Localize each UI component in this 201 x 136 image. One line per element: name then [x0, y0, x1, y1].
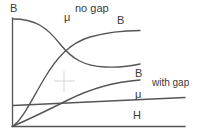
x-axis-label: H [133, 110, 141, 121]
crosshair-marker [54, 71, 75, 92]
y-axis-label: B [10, 3, 17, 14]
curve-b-no-gap [13, 31, 140, 127]
plot-canvas [0, 0, 201, 136]
curve-label-b-no-gap: B [117, 15, 124, 26]
curve-label-b-with-gap: B [135, 68, 142, 79]
curve-label-mu-with-gap: μ [135, 89, 141, 100]
curve-mu-with-gap [13, 98, 185, 106]
annotation-with-gap: with gap [152, 78, 189, 88]
annotation-no-gap: no gap [75, 3, 109, 14]
curve-label-mu-no-gap: μ [64, 12, 70, 23]
bh-permeability-figure: B no gap μ B B with gap μ H [0, 0, 201, 136]
